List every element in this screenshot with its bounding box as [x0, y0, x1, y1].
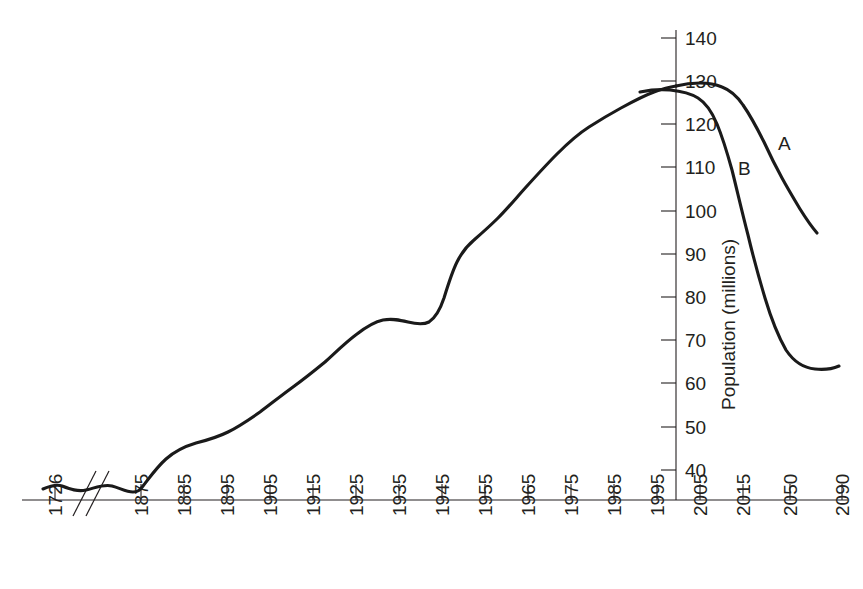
y-tick-label: 120 [685, 114, 717, 135]
chart-canvas: 140 130 120 110 100 90 80 70 60 50 40 Po… [0, 0, 863, 589]
x-tick-label: 1885 [174, 474, 195, 516]
y-tick-label: 110 [685, 157, 715, 178]
x-tick-label: 1955 [475, 474, 496, 516]
y-tick-label: 100 [685, 201, 717, 222]
series-historical-line [43, 86, 676, 492]
x-axis-tick-labels: 1726 1875 1885 1895 1905 1915 1925 1935 … [45, 474, 853, 516]
x-tick-label: 1925 [346, 474, 367, 516]
x-tick-label: 1985 [604, 474, 625, 516]
x-tick-label: 1726 [45, 474, 66, 516]
y-axis-tick-labels: 140 130 120 110 100 90 80 70 60 50 40 [685, 28, 717, 481]
y-tick-label: 70 [685, 330, 706, 351]
x-tick-label: 1905 [260, 474, 281, 516]
x-tick-label: 1935 [389, 474, 410, 516]
y-tick-label: 60 [685, 373, 706, 394]
series-a-label: A [778, 133, 791, 154]
x-tick-label: 2015 [733, 474, 754, 516]
x-tick-label: 2050 [780, 474, 801, 516]
x-tick-label: 1945 [432, 474, 453, 516]
y-axis-ticks [661, 38, 676, 470]
x-tick-label: 1895 [217, 474, 238, 516]
x-tick-label: 1965 [518, 474, 539, 516]
x-tick-label: 1975 [561, 474, 582, 516]
y-tick-label: 50 [685, 417, 706, 438]
y-axis-title: Population (millions) [718, 239, 739, 410]
x-tick-label: 2090 [832, 474, 853, 516]
axis-break-marker [73, 471, 109, 516]
y-tick-label: 90 [685, 244, 706, 265]
series-b-label: B [738, 158, 751, 179]
x-tick-label: 1915 [303, 474, 324, 516]
x-tick-label: 2005 [690, 474, 711, 516]
x-tick-label: 1995 [647, 474, 668, 516]
population-chart: 140 130 120 110 100 90 80 70 60 50 40 Po… [0, 0, 863, 589]
y-tick-label: 140 [685, 28, 717, 49]
y-tick-label: 80 [685, 287, 706, 308]
series-b-line [640, 90, 839, 370]
